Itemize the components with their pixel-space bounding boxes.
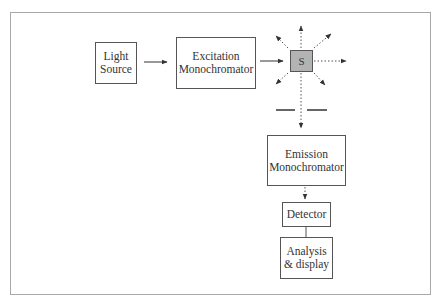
analysis-label-1: Analysis [286, 245, 326, 258]
emission-arrow-down-right [314, 73, 325, 85]
detector-label: Detector [287, 208, 327, 221]
excitation-label-1: Excitation [192, 50, 239, 63]
light-source-box: Light Source [95, 42, 137, 84]
sample-box: S [290, 50, 313, 72]
detector-box: Detector [282, 202, 331, 227]
light-source-label-1: Light [104, 50, 129, 63]
sample-label: S [298, 55, 304, 68]
emission-arrow-up-left [276, 36, 288, 48]
excitation-label-2: Monochromator [179, 63, 254, 76]
excitation-monochromator-box: Excitation Monochromator [176, 37, 256, 89]
emission-arrow-down-left [276, 73, 288, 84]
emission-arrow-up-right [314, 34, 331, 48]
analysis-label-2: & display [284, 258, 329, 271]
analysis-display-box: Analysis & display [280, 237, 333, 279]
light-source-label-2: Source [100, 63, 132, 76]
emission-label-1: Emission [285, 148, 328, 161]
emission-monochromator-box: Emission Monochromator [267, 135, 346, 186]
emission-label-2: Monochromator [269, 161, 344, 174]
